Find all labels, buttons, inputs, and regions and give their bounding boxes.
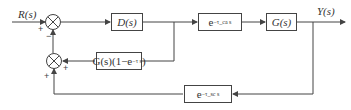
sum1-feedback-sign: − [46,32,51,41]
feedback-delay-exponent: −τ_sc s [202,91,220,97]
controller-label: D(s) [117,16,137,28]
sum-junction-2 [46,53,62,69]
sum-junction-1 [45,14,61,30]
output-label: Y(s) [317,6,335,17]
predictor-exponent: −τ s [132,58,142,64]
predictor-label: G(s)(1−e [92,55,132,67]
forward-delay-exponent: −τ_ca s [213,19,231,25]
sum2-predictor-sign: + [63,64,68,73]
forward-delay-block: e−τ_ca s [198,13,242,31]
sum1-input-sign: + [38,25,43,34]
predictor-block-frame: G(s)(1−e−τ s) [96,52,142,70]
feedback-delay-block: e−τ_sc s [184,85,232,103]
controller-block: D(s) [111,13,143,31]
plant-label: G(s) [272,16,292,28]
plant-block: G(s) [266,13,297,31]
sum2-feedback-sign: + [44,72,49,81]
input-label: R(s) [18,9,36,20]
predictor-close: ) [142,55,146,67]
